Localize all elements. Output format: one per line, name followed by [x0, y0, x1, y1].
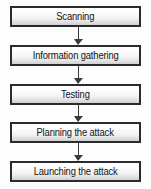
flowchart-node-label: Planning the attack: [37, 128, 114, 138]
flowchart-node-testing: Testing: [10, 84, 141, 105]
flowchart-node-information-gathering: Information gathering: [10, 45, 141, 66]
flowchart-node-label: Information gathering: [33, 51, 119, 61]
flowchart-node-scanning: Scanning: [10, 6, 141, 27]
arrow-down-icon: [74, 143, 83, 161]
arrow-down-icon: [74, 105, 83, 122]
flowchart-node-label: Scanning: [56, 12, 94, 22]
arrow-down-icon: [74, 27, 83, 45]
flowchart-node-launching-the-attack: Launching the attack: [10, 161, 141, 182]
flowchart-node-label: Launching the attack: [34, 167, 118, 177]
flowchart-diagram: Scanning Information gathering Testing P…: [0, 0, 151, 189]
flowchart-node-planning-the-attack: Planning the attack: [10, 122, 141, 143]
arrow-down-icon: [74, 66, 83, 84]
flowchart-node-label: Testing: [61, 90, 90, 100]
